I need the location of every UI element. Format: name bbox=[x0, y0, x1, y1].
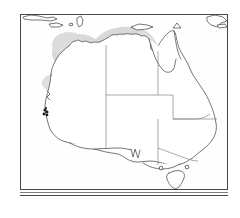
island-sumba bbox=[49, 23, 63, 27]
island-flores bbox=[77, 16, 83, 27]
island-small-dot bbox=[69, 23, 73, 26]
map-canvas bbox=[21, 15, 227, 189]
king-island bbox=[159, 166, 163, 170]
flinders-island bbox=[185, 165, 189, 169]
island-small-peak bbox=[173, 23, 181, 28]
coastline-mainland bbox=[45, 31, 216, 165]
map-frame bbox=[20, 14, 228, 190]
distribution-map-figure bbox=[0, 0, 240, 218]
island-timor bbox=[23, 15, 57, 21]
figure-baseline-strip bbox=[20, 192, 228, 196]
island-new-guinea-tail bbox=[217, 24, 227, 28]
tasmania bbox=[167, 171, 185, 189]
